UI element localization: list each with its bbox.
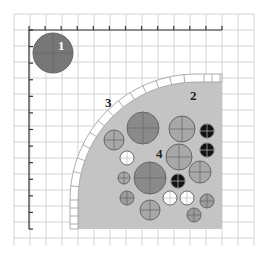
label-region-4: 4 xyxy=(156,146,163,161)
circle-marker-white xyxy=(120,151,134,165)
circle-marker-stipple xyxy=(120,191,134,205)
circle-marker-stipple xyxy=(187,208,201,222)
circle-marker-medium xyxy=(104,130,124,150)
circle-marker-white xyxy=(180,191,194,205)
circle-marker-dark xyxy=(134,162,166,194)
circle-marker-medium xyxy=(140,200,160,220)
circle-marker-white xyxy=(163,191,177,205)
diagram-canvas: 1 2 3 4 xyxy=(0,0,267,257)
circle-marker-black xyxy=(171,174,185,188)
circle-marker-dark xyxy=(127,112,159,144)
circle-marker-region1 xyxy=(33,33,73,73)
label-region-1: 1 xyxy=(58,38,65,53)
circle-marker-black xyxy=(200,124,214,138)
label-region-2: 2 xyxy=(190,88,197,103)
label-region-3: 3 xyxy=(105,95,112,110)
circle-marker-stipple xyxy=(200,194,214,208)
circle-marker-medium xyxy=(118,172,130,184)
circle-marker-black xyxy=(200,143,214,157)
circle-marker-medium xyxy=(189,161,211,183)
circle-marker-medium xyxy=(166,144,192,170)
circle-marker-medium xyxy=(169,116,195,142)
